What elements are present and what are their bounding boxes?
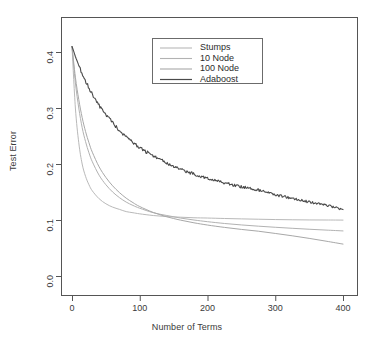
x-axis-title: Number of Terms [0, 322, 374, 332]
legend-label-adaboost: Adaboost [200, 74, 238, 84]
chart-figure: Test Error Number of Terms 0100200300400… [0, 0, 374, 350]
y-tick-label: 0.0 [45, 275, 55, 315]
y-tick-label: 0.3 [45, 107, 55, 147]
y-tick-label: 0.4 [45, 51, 55, 91]
x-tick-label: 300 [255, 303, 295, 313]
x-tick-label: 400 [323, 303, 363, 313]
plot-area [0, 0, 374, 350]
y-tick-label: 0.1 [45, 219, 55, 259]
legend-label-10-node: 10 Node [200, 53, 234, 63]
legend-label-100-node: 100 Node [200, 63, 239, 73]
x-tick-label: 0 [52, 303, 92, 313]
x-tick-label: 200 [188, 303, 228, 313]
y-axis-title: Test Error [8, 116, 18, 186]
x-tick-label: 100 [120, 303, 160, 313]
legend-label-stumps: Stumps [200, 42, 231, 52]
y-tick-label: 0.2 [45, 163, 55, 203]
